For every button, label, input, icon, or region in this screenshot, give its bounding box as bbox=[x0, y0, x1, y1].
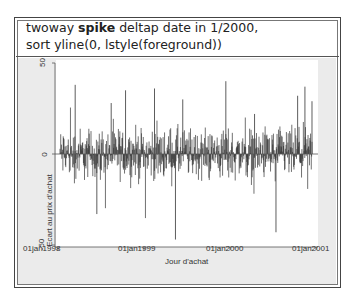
x-tick-label: 01jan1998 bbox=[23, 244, 60, 253]
x-tick-label: 01jan2001 bbox=[292, 244, 329, 253]
x-axis-label: Jour d'achat bbox=[165, 257, 208, 266]
command-prefix: twoway bbox=[26, 20, 78, 35]
x-tick-label: 01jan1999 bbox=[118, 244, 155, 253]
y-tick-label: 0 bbox=[40, 152, 49, 156]
command-line1-rest: deltap date in 1/2000, bbox=[115, 20, 258, 35]
spike-chart bbox=[18, 58, 336, 284]
stata-command: twoway spike deltap date in 1/2000, sort… bbox=[26, 19, 336, 53]
graph-region: Ecart au prix d'achat 50 0 -50 bbox=[18, 58, 336, 284]
y-tick-label: 50 bbox=[38, 58, 47, 67]
command-line2: sort yline(0, lstyle(foreground)) bbox=[26, 37, 222, 52]
divider bbox=[16, 56, 339, 57]
x-tick-label: 01jan2000 bbox=[206, 244, 243, 253]
y-axis-label: Ecart au prix d'achat bbox=[45, 174, 54, 247]
command-keyword: spike bbox=[78, 20, 115, 35]
